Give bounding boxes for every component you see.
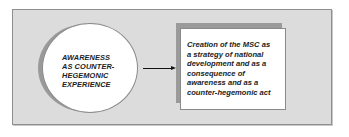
awareness-line-4: EXPERIENCE [62,80,132,89]
msc-line-6: counter-hegemonic act [187,88,287,98]
arrow-connector [143,68,173,69]
awareness-line-3: HEGEMONIC [62,71,132,80]
awareness-node-label: AWARENESS AS COUNTER- HEGEMONIC EXPERIEN… [62,53,132,89]
msc-line-2: a strategy of national [187,50,287,60]
msc-line-4: consequence of [187,69,287,79]
msc-line-1: Creation of the MSC as [187,40,287,50]
msc-line-5: awareness and as a [187,78,287,88]
awareness-line-1: AWARENESS [62,53,132,62]
msc-line-3: development and as a [187,59,287,69]
msc-creation-node-label: Creation of the MSC as a strategy of nat… [187,40,287,97]
awareness-line-2: AS COUNTER- [62,62,132,71]
